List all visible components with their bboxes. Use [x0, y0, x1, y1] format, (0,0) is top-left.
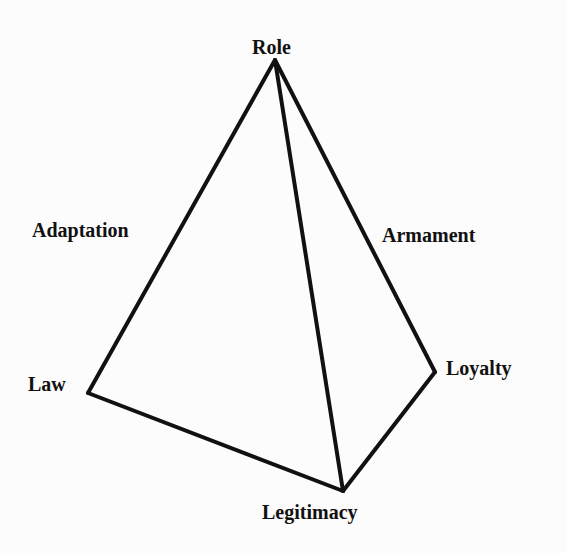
vertex-label-loyalty: Loyalty — [446, 358, 512, 378]
vertex-label-law: Law — [28, 374, 66, 394]
edge-label-adaptation: Adaptation — [32, 220, 129, 240]
edge-label-armament: Armament — [382, 225, 475, 245]
tetrahedron-figure — [0, 0, 567, 553]
edge-loyalty-legitimacy — [343, 372, 435, 491]
vertex-label-legitimacy: Legitimacy — [262, 502, 358, 522]
edge-law-legitimacy — [88, 393, 343, 491]
tetrahedron-diagram: Role Adaptation Armament Law Loyalty Leg… — [0, 0, 567, 553]
vertex-label-role: Role — [252, 37, 291, 57]
